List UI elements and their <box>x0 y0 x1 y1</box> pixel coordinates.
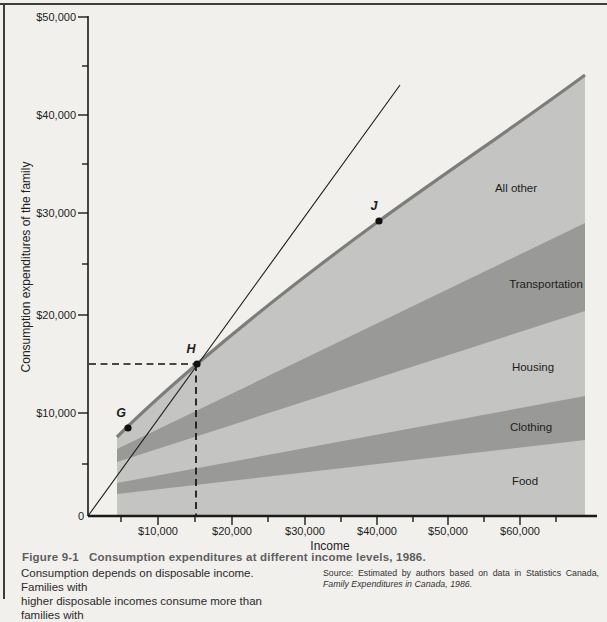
origin-label: 0 <box>78 510 84 522</box>
figure-title: Figure 9-1Consumption expenditures at di… <box>22 551 607 563</box>
x-tick-60000: $60,000 <box>500 525 540 537</box>
point-g <box>124 424 131 431</box>
figure-caption: Figure 9-1Consumption expenditures at di… <box>0 551 607 566</box>
figure-number: Figure 9-1 <box>22 551 79 563</box>
point-h <box>193 360 200 367</box>
x-tick-30000: $30,000 <box>285 525 325 537</box>
point-j <box>375 217 382 224</box>
y-tick-40000: $40,000 <box>36 109 76 121</box>
x-axis-ticks <box>121 516 556 525</box>
figure-title-text: Consumption expenditures at different in… <box>89 551 426 563</box>
stacked-area-bands <box>117 75 585 515</box>
y-axis-title: Consumption expenditures of the family <box>19 162 33 373</box>
y-tick-20000: $20,000 <box>36 309 76 321</box>
y-tick-10000: $10,000 <box>36 407 76 419</box>
band-label-housing: Housing <box>512 361 554 373</box>
x-tick-50000: $50,000 <box>428 525 468 537</box>
x-tick-40000: $40,000 <box>357 525 397 537</box>
y-tick-50000: $50,000 <box>36 11 76 23</box>
y-tick-labels: $50,000 $40,000 $30,000 $20,000 $10,000 … <box>36 11 84 522</box>
consumption-chart: $50,000 $40,000 $30,000 $20,000 $10,000 … <box>0 0 607 550</box>
band-label-transportation: Transportation <box>509 278 583 290</box>
caption-source: Source: Estimated by authors based on da… <box>323 568 599 590</box>
point-label-j: J <box>371 199 379 213</box>
caption-source-text: Source: Estimated by authors based on da… <box>323 568 599 578</box>
x-tick-labels: $10,000 $20,000 $30,000 $40,000 $50,000 … <box>138 525 540 537</box>
caption-body-line1: Consumption depends on disposable income… <box>21 567 254 593</box>
caption-body-line2: higher disposable incomes consume more t… <box>21 595 262 621</box>
caption-source-italic: Family Expenditures in Canada, 1986. <box>323 579 472 589</box>
band-label-food: Food <box>512 475 538 487</box>
y-tick-30000: $30,000 <box>36 207 76 219</box>
x-tick-20000: $20,000 <box>212 525 252 537</box>
band-label-clothing: Clothing <box>510 421 552 433</box>
y-axis-ticks <box>78 17 88 464</box>
x-axis-title: Income <box>310 539 350 550</box>
point-label-h: H <box>186 342 196 356</box>
caption-body: Consumption depends on disposable income… <box>21 566 297 622</box>
band-label-all-other: All other <box>495 182 537 194</box>
point-label-g: G <box>116 406 126 420</box>
x-tick-10000: $10,000 <box>138 525 178 537</box>
